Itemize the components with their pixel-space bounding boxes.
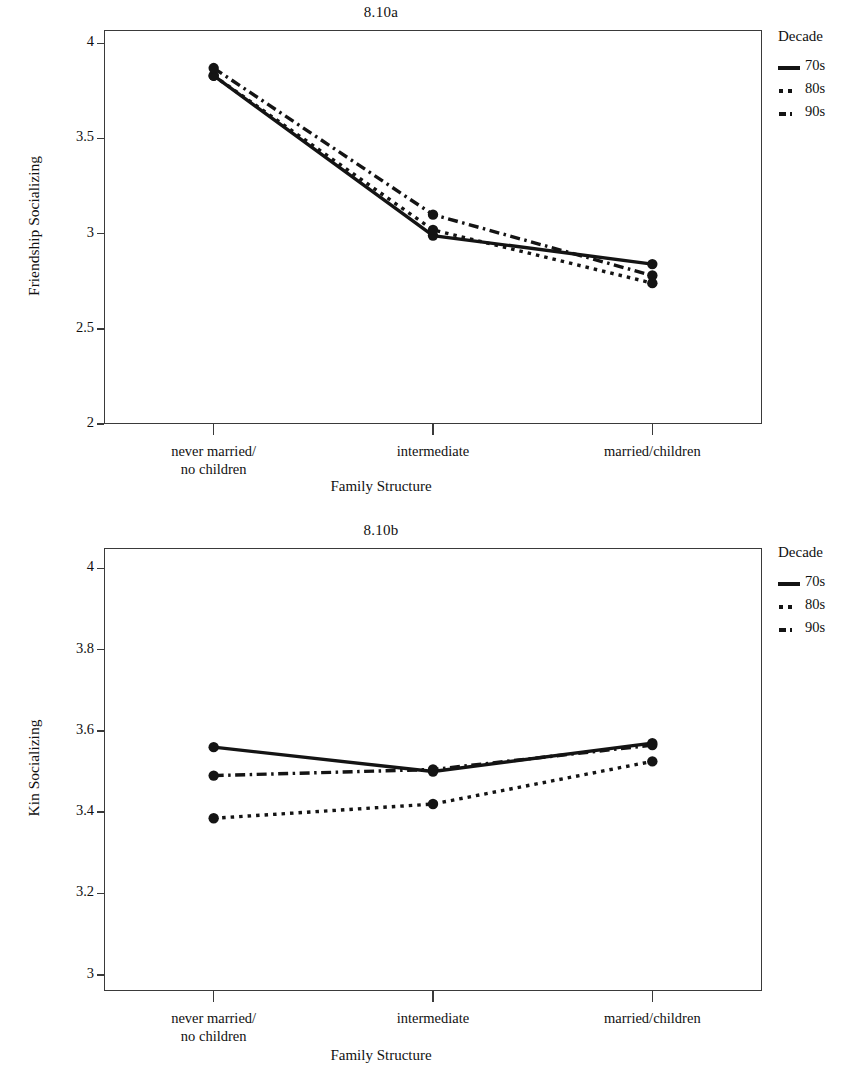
- data-point-80s: [428, 225, 438, 235]
- chart-panel-8-10a: 8.10a Friendship Socializing 22.533.54 n…: [0, 0, 841, 512]
- legend-swatch-dashdot-icon: [778, 622, 802, 634]
- data-point-90s: [208, 770, 218, 780]
- data-point-80s: [428, 799, 438, 809]
- legend-swatch-solid-icon: [778, 576, 802, 588]
- data-point-90s: [208, 63, 218, 73]
- legend-item-80s[interactable]: 80s: [778, 593, 841, 616]
- series-lines-a: [0, 0, 841, 512]
- legend-label-80s: 80s: [805, 596, 825, 613]
- data-point-80s: [208, 813, 218, 823]
- series-line-90s: [214, 68, 653, 275]
- data-point-90s: [647, 740, 657, 750]
- legend-swatch-solid-icon: [778, 60, 802, 72]
- legend-item-70s[interactable]: 70s: [778, 570, 841, 593]
- legend-label-80s: 80s: [805, 80, 825, 97]
- legend-swatch-dotted-icon: [778, 83, 802, 95]
- legend-label-70s: 70s: [805, 573, 825, 590]
- data-point-70s: [208, 742, 218, 752]
- data-point-90s: [647, 270, 657, 280]
- chart-panel-8-10b: 8.10b Kin Socializing 33.23.43.63.84 nev…: [0, 512, 841, 1082]
- data-point-90s: [428, 764, 438, 774]
- legend-item-70s[interactable]: 70s: [778, 54, 841, 77]
- data-point-90s: [428, 209, 438, 219]
- legend-item-90s[interactable]: 90s: [778, 100, 841, 123]
- legend-swatch-dashdot-icon: [778, 106, 802, 118]
- legend-a: Decade 70s 80s 90s: [778, 28, 841, 123]
- figure-page: 8.10a Friendship Socializing 22.533.54 n…: [0, 0, 841, 1082]
- x-axis-title-a: Family Structure: [0, 478, 762, 495]
- legend-title-a: Decade: [778, 28, 841, 45]
- legend-swatch-dotted-icon: [778, 599, 802, 611]
- legend-item-90s[interactable]: 90s: [778, 616, 841, 639]
- x-axis-title-b: Family Structure: [0, 1047, 762, 1064]
- data-point-70s: [647, 259, 657, 269]
- series-line-80s: [214, 76, 653, 283]
- legend-item-80s[interactable]: 80s: [778, 77, 841, 100]
- legend-title-b: Decade: [778, 544, 841, 561]
- legend-label-90s: 90s: [805, 103, 825, 120]
- legend-label-90s: 90s: [805, 619, 825, 636]
- legend-b: Decade 70s 80s 90s: [778, 544, 841, 639]
- legend-label-70s: 70s: [805, 57, 825, 74]
- series-lines-b: [0, 512, 841, 1082]
- data-point-80s: [647, 756, 657, 766]
